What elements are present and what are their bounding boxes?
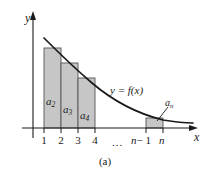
bar-label-a2-sub: 2 (52, 100, 56, 109)
x-tick-label-n: n (159, 135, 165, 146)
x-tick-label-4: 4 (89, 135, 101, 146)
x-tick-n-minus-1-op: − 1 (137, 134, 151, 146)
x-tick-label-1: 1 (38, 135, 50, 146)
bar-a3 (61, 63, 78, 128)
bar-label-a2: a2 (46, 96, 55, 109)
curve-label: y = f(x) (110, 85, 143, 96)
figure-series-integral-test: y x y = f(x) a2 a3 a4 an 1 2 3 4 ... n− … (0, 0, 210, 173)
bars-group (44, 48, 163, 128)
x-axis-label: x (194, 131, 199, 143)
bar-label-a4: a4 (80, 110, 89, 123)
bar-label-an: an (165, 98, 173, 110)
x-axis-ellipsis: ... (112, 137, 123, 148)
x-axis-ticks (44, 128, 163, 133)
y-axis-label: y (25, 12, 30, 24)
bar-label-a3-sub: 3 (69, 108, 73, 117)
bar-label-a4-sub: 4 (86, 114, 90, 123)
figure-canvas (0, 0, 210, 173)
y-axis-arrow-icon (30, 11, 36, 20)
figure-caption: (a) (0, 156, 210, 167)
x-tick-label-3: 3 (72, 135, 84, 146)
bar-label-an-sub: n (170, 102, 173, 109)
bar-a2 (44, 48, 61, 128)
x-tick-label-n-minus-1: n− 1 (131, 135, 151, 146)
bar-label-a3: a3 (63, 104, 72, 117)
x-tick-label-2: 2 (55, 135, 67, 146)
